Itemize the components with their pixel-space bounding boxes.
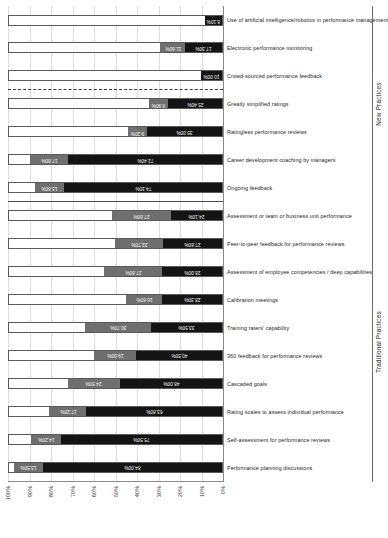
bar-value-label: 40.50% [171, 353, 187, 358]
category-label: Career development coaching by managers [227, 157, 335, 163]
bar-segment-s3 [9, 267, 104, 276]
y-axis-tick-label: 30% [156, 486, 162, 497]
bar-value-label: 22.70% [131, 241, 147, 246]
stacked-bar[interactable]: 48.00%24.50% [8, 378, 223, 389]
bar-value-label: 28.00% [184, 269, 200, 274]
bar-segment-s1: 74.30% [64, 183, 222, 192]
bar-segment-s1: 48.00% [120, 379, 222, 388]
bar-slot: 74.30%13.60% [8, 174, 223, 202]
bar-slot: 40.50%19.60% [8, 341, 223, 369]
category-label-slot: Cascaded goals [224, 370, 374, 398]
bar-segment-s1: 35.00% [147, 127, 222, 136]
bar-segment-s2: 16.60% [126, 295, 161, 304]
bar-segment-s3 [9, 99, 149, 108]
category-label-slot: Use of artificial intelligence/robotics … [224, 6, 374, 34]
bar-value-label: 27.60% [185, 241, 201, 246]
bar-segment-s3 [9, 295, 126, 304]
category-label: Calibration meetings [227, 297, 278, 303]
bar-segment-s1: 8.10% [205, 16, 222, 25]
y-axis-tick-label: 20% [177, 486, 183, 497]
stacked-bar[interactable]: 74.30%13.60% [8, 182, 223, 193]
bar-value-label: 24.10% [188, 213, 204, 218]
bar-value-label: 13.60% [41, 185, 57, 190]
bar-segment-s3 [9, 43, 160, 52]
category-label-slot: Electronic performance monitoring [224, 34, 374, 62]
stacked-bar[interactable]: 10.00% [8, 70, 223, 81]
bar-slot: 17.30%11.60% [8, 34, 223, 62]
bar-segment-s3 [9, 71, 201, 80]
category-label-slot: Self-assessment for performance reviews [224, 426, 374, 454]
bar-value-label: 28.30% [184, 297, 200, 302]
bar-value-label: 14.20% [38, 437, 54, 442]
stacked-bar[interactable]: 8.10% [8, 15, 223, 26]
y-axis-tick-label: 0% [220, 486, 226, 494]
stacked-bar[interactable]: 84.00%13.50% [8, 462, 223, 473]
stacked-bar[interactable]: 33.50%30.70% [8, 322, 223, 333]
bar-value-label: 16.60% [136, 297, 152, 302]
category-label: Crowd-sourced performance feedback [227, 73, 322, 79]
category-label: Peer-to-peer feedback for performance re… [227, 241, 344, 247]
bar-segment-s1: 17.30% [185, 43, 222, 52]
bar-value-label: 17.30% [195, 46, 211, 51]
bar-value-label: 8.90% [152, 102, 166, 107]
bar-segment-s3 [9, 407, 49, 416]
category-label-slot: Performance planning discussions [224, 454, 374, 482]
category-label-slot: Career development coaching by managers [224, 146, 374, 174]
group-label: Traditional Practices [372, 202, 382, 482]
category-label-slot: Rating scales to assess individual perfo… [224, 398, 374, 426]
bar-segment-s2: 13.50% [14, 463, 43, 472]
bar-slot: 25.40%8.90% [8, 90, 223, 118]
stacked-bar[interactable]: 75.50%14.20% [8, 434, 223, 445]
category-label-slot: Crowd-sourced performance feedback [224, 62, 374, 90]
bar-segment-s2: 22.70% [115, 239, 163, 248]
bar-value-label: 25.40% [187, 102, 203, 107]
bar-segment-s2: 27.60% [112, 211, 171, 220]
y-axis-tick-label: 60% [91, 486, 97, 497]
stacked-bar[interactable]: 24.10%27.60% [8, 210, 223, 221]
bar-value-label: 48.00% [163, 381, 179, 386]
stacked-bar[interactable]: 40.50%19.60% [8, 350, 223, 361]
bar-slot: 35.00%9.20% [8, 118, 223, 146]
bar-slot: 63.80%17.20% [8, 397, 223, 425]
category-label: Cascaded goals [227, 381, 267, 387]
bar-value-label: 27.60% [133, 213, 149, 218]
category-label: Training raters' capability [227, 325, 289, 331]
bar-slot: 28.30%16.60% [8, 285, 223, 313]
category-label: Self-assessment for performance reviews [227, 437, 330, 443]
stacked-bar[interactable]: 17.30%11.60% [8, 42, 223, 53]
category-label-slot: Calibration meetings [224, 286, 374, 314]
category-label-slot: Greatly simplified ratings [224, 90, 374, 118]
bar-value-label: 17.80% [41, 157, 57, 162]
stacked-bar[interactable]: 27.60%22.70% [8, 238, 223, 249]
bar-value-label: 33.50% [178, 325, 194, 330]
bar-value-label: 13.50% [21, 465, 37, 470]
bar-value-label: 17.20% [60, 409, 76, 414]
stacked-bar[interactable]: 72.40%17.80% [8, 154, 223, 165]
y-axis-tick-label: 100% [5, 486, 11, 500]
bar-segment-s3 [9, 183, 35, 192]
stacked-bar[interactable]: 28.30%16.60% [8, 294, 223, 305]
y-axis-tick-label: 80% [48, 486, 54, 497]
bar-segment-s1: 10.00% [201, 71, 222, 80]
group-labels: Traditional PracticesNew Practices [360, 6, 382, 482]
group-separator [8, 201, 223, 202]
stacked-bar[interactable]: 25.40%8.90% [8, 98, 223, 109]
category-label: Ongoing feedback [227, 185, 272, 191]
bar-segment-s3 [9, 379, 68, 388]
group-separator [8, 89, 223, 90]
bar-segment-s1: 75.50% [61, 435, 222, 444]
bar-segment-s1: 72.40% [68, 155, 222, 164]
category-label: Performance planning discussions [227, 465, 312, 471]
bar-segment-s2: 27.60% [104, 267, 163, 276]
stacked-bar[interactable]: 28.00%27.60% [8, 266, 223, 277]
category-label-slot: Assessment or team or business unit perf… [224, 202, 374, 230]
bar-value-label: 63.80% [146, 409, 162, 414]
bar-value-label: 8.10% [207, 18, 221, 23]
bar-value-label: 10.00% [203, 74, 219, 79]
stacked-bar[interactable]: 35.00%9.20% [8, 126, 223, 137]
bar-slot: 28.00%27.60% [8, 258, 223, 286]
bar-segment-s2: 9.20% [128, 127, 148, 136]
stacked-bar[interactable]: 63.80%17.20% [8, 406, 223, 417]
bar-segment-s3 [9, 16, 205, 25]
